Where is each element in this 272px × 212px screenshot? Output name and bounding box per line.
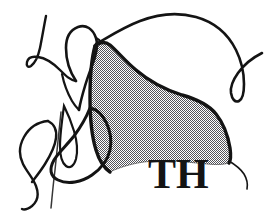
lower-left-spike <box>60 106 77 167</box>
artwork-canvas: TH <box>0 0 272 212</box>
upper-left-hook-path <box>27 16 76 81</box>
lower-left-spike-path <box>60 106 77 167</box>
upper-left-hook <box>27 16 76 81</box>
shaded-body-fill <box>0 0 272 212</box>
halftone-fill-rect <box>0 0 272 212</box>
line-art-illustration <box>0 0 272 212</box>
right-descender <box>229 161 247 189</box>
right-descender-path <box>229 161 247 189</box>
